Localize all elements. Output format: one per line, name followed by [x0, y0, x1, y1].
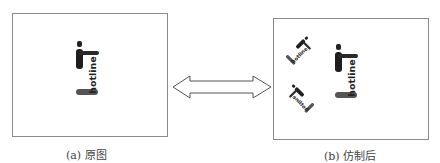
logo-text: hotline [344, 58, 358, 98]
logo-dot [336, 44, 341, 50]
logo-text: hotline [289, 45, 310, 66]
caption-forged: (b) 仿制后 [324, 147, 376, 163]
hotline-logo: hotline [334, 44, 362, 102]
forged-image-panel: hotline hotline hotline [273, 18, 429, 140]
caption-original: (a) 原图 [66, 146, 107, 162]
copied-logo: hotline [283, 83, 316, 116]
copied-logo: hotline [283, 35, 316, 68]
